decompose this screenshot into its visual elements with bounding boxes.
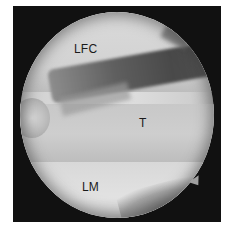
label-lm: LM	[82, 181, 99, 193]
scope-vignette	[20, 12, 214, 218]
label-lfc: LFC	[74, 43, 97, 55]
label-t: T	[139, 117, 147, 129]
arthroscopic-field	[20, 12, 214, 218]
